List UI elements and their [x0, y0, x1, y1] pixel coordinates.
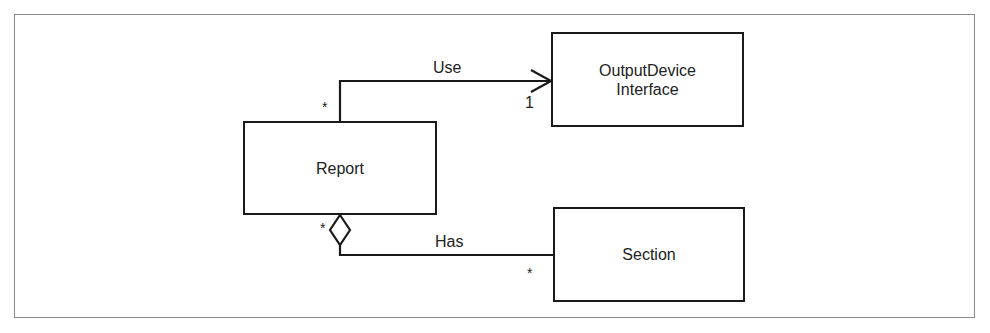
class-output-device-name-line2: Interface	[616, 80, 678, 99]
class-section[interactable]: Section	[553, 207, 745, 302]
use-association-line	[340, 81, 551, 121]
use-from-multiplicity: *	[322, 99, 327, 115]
has-association-label: Has	[435, 233, 463, 251]
has-to-multiplicity: *	[527, 265, 532, 281]
aggregation-diamond-icon	[330, 215, 350, 245]
class-output-device-name-line1: OutputDevice	[599, 61, 696, 80]
class-output-device-interface[interactable]: OutputDevice Interface	[551, 32, 744, 127]
connector-lines	[0, 0, 990, 333]
use-to-multiplicity: 1	[525, 94, 534, 112]
class-report[interactable]: Report	[243, 121, 437, 215]
use-association-label: Use	[433, 59, 461, 77]
has-from-multiplicity: *	[320, 220, 325, 236]
class-section-name: Section	[622, 245, 675, 264]
class-report-name: Report	[316, 159, 364, 178]
